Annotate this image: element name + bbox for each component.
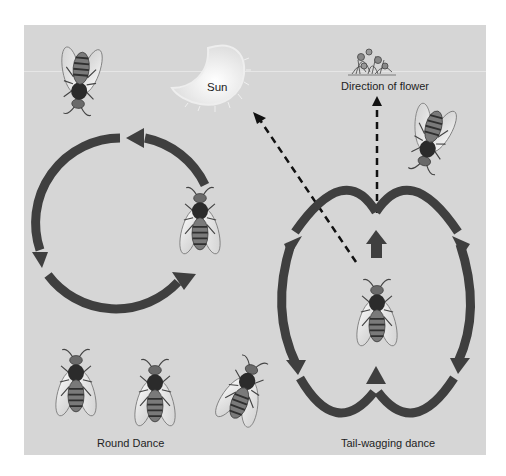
honeybee-icon [131, 359, 179, 427]
round-arrowhead-top [126, 128, 144, 148]
flower-direction-label: Direction of flower [341, 80, 429, 92]
tail-wagging-dance-label: Tail-wagging dance [341, 437, 435, 449]
round-arc-top-left [36, 138, 120, 250]
dance-diagram [0, 0, 506, 476]
round-dance-label: Round Dance [97, 437, 164, 449]
waggle-top-right-lobe [376, 190, 458, 232]
waggle-bottom-left-lobe [300, 378, 374, 413]
honeybee-icon [53, 44, 107, 116]
flower-cluster-icon [348, 49, 396, 75]
waggle-arrowhead-bottom-left [286, 360, 306, 375]
round-arrowhead-left [32, 252, 48, 268]
round-arc-right [145, 138, 205, 185]
waggle-top-left-lobe [295, 190, 376, 232]
dashed-direction-lines [260, 105, 377, 262]
flower-direction-arrowhead [372, 96, 382, 106]
honeybee-icon [353, 279, 401, 347]
waggle-run-arrowhead [366, 230, 387, 244]
waggle-arrowhead-bottom-right [450, 358, 470, 374]
sun-icon [172, 46, 251, 112]
sun-label: Sun [207, 81, 227, 93]
honeybee-icon [398, 99, 462, 178]
waggle-left-side [282, 244, 296, 364]
waggle-right-side [458, 244, 471, 362]
honeybee-icon [209, 351, 278, 432]
honeybee-icon [176, 187, 224, 255]
bees [52, 44, 463, 432]
waggle-run-arrow-shaft [371, 242, 382, 258]
sun-direction-arrowhead [253, 112, 266, 124]
round-arc-bottom [48, 275, 178, 309]
waggle-bottom-right-lobe [378, 378, 454, 413]
waggle-arrowhead-center-bottom [366, 366, 386, 384]
honeybee-icon [52, 349, 100, 417]
